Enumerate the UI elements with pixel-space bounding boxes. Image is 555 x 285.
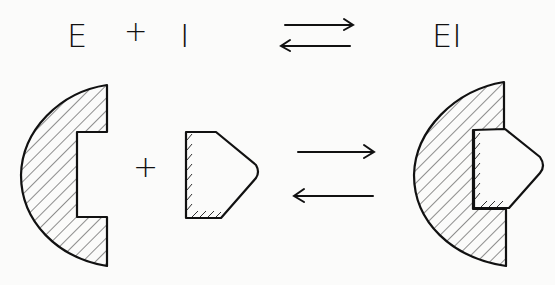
enzyme-inhibitor-diagram: E + I EI + [0,0,555,285]
inhibitor-shape [186,132,258,218]
enzyme-shape [21,85,107,266]
equilibrium-arrows-top [281,19,353,51]
complex-inhibitor-shape [474,129,543,208]
equilibrium-arrows-middle [294,145,374,202]
diagram-drawing [0,0,555,285]
